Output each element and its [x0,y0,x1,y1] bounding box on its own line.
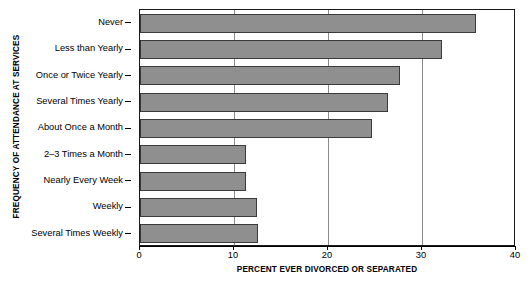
bar-row [140,63,516,89]
category-tick [125,180,131,181]
category-label: Several Times Weekly [31,220,123,246]
category-tick [125,101,131,102]
category-label: Nearly Every Week [44,167,123,193]
bar [140,119,372,138]
bar-row [140,194,516,220]
category-tick [125,75,131,76]
category-label: Once or Twice Yearly [36,62,123,88]
bar [140,145,246,164]
category-tick [125,22,131,23]
category-label: 2–3 Times a Month [44,141,123,167]
category-label: Less than Yearly [55,35,123,61]
category-tick [125,128,131,129]
bar-row [140,115,516,141]
category-label: About Once a Month [38,114,123,140]
bar-row [140,221,516,247]
x-axis-tick-label: 30 [416,250,426,260]
bar [140,14,476,33]
x-axis-title: PERCENT EVER DIVORCED OR SEPARATED [139,265,515,274]
bar-row [140,36,516,62]
bar-row [140,142,516,168]
category-tick [125,154,131,155]
category-tick [125,49,131,50]
x-axis-tick-label: 10 [228,250,238,260]
bar [140,66,400,85]
bar [140,224,258,243]
x-axis-tick-label: 0 [136,250,141,260]
category-label: Weekly [93,193,123,219]
category-label: Several Times Yearly [36,88,123,114]
bar [140,198,257,217]
bar-row [140,168,516,194]
bar [140,40,442,59]
plot-area [139,9,515,246]
category-label: Never [98,9,123,35]
bar-chart: FREQUENCY OF ATTENDANCE AT SERVICES Neve… [0,0,529,287]
category-tick [125,233,131,234]
bar-row [140,89,516,115]
bar [140,93,388,112]
bar-row [140,10,516,36]
category-axis: NeverLess than YearlyOnce or Twice Yearl… [0,9,131,246]
bar [140,172,246,191]
category-tick [125,207,131,208]
x-axis-tick-label: 20 [322,250,332,260]
x-axis-tick-label: 40 [510,250,520,260]
